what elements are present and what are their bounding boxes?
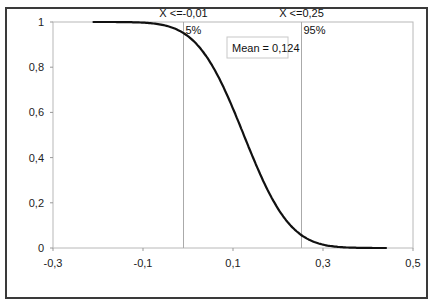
x-tick-label: 0,1 [225,257,240,269]
y-tick-label: 0,6 [29,106,44,118]
percentile-percent-label: 5% [186,24,202,36]
mean-annotation: Mean = 0,124 [227,37,300,58]
y-tick-label: 0,4 [29,152,44,164]
x-tick-label: -0,3 [44,257,63,269]
x-tick-label: 0,5 [405,257,420,269]
y-axis: 00,20,40,60,81 [29,16,53,254]
x-tick-label: -0,1 [134,257,153,269]
y-tick-label: 0 [38,242,44,254]
x-tick-label: 0,3 [315,257,330,269]
percentile-threshold-label: X <=0,25 [279,7,324,19]
x-axis: -0,3-0,10,10,30,5 [44,248,421,269]
percentile-percent-label: 95% [304,24,326,36]
chart: 00,20,40,60,81 -0,3-0,10,10,30,5 X <=-0,… [0,0,433,301]
y-tick-label: 1 [38,16,44,28]
percentile-threshold-label: X <=-0,01 [159,7,207,19]
y-tick-label: 0,2 [29,197,44,209]
mean-label: Mean = 0,124 [232,42,300,54]
y-tick-label: 0,8 [29,61,44,73]
